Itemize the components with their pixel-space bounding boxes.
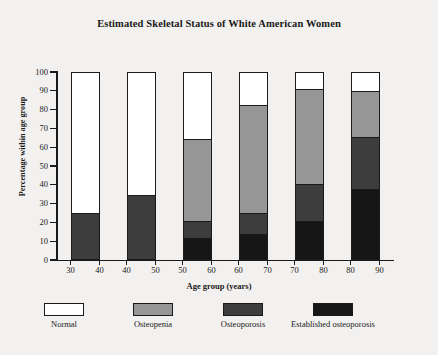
- bar-segment-normal: [352, 73, 379, 92]
- y-axis-title: Percentage within age group: [18, 82, 27, 212]
- bar-segment-established: [296, 222, 323, 259]
- legend-swatch: [133, 303, 173, 316]
- y-axis-tick-label: 0: [2, 256, 48, 265]
- bar-70-80[interactable]: [295, 72, 324, 260]
- bar-segment-normal: [128, 73, 155, 196]
- y-axis-tick: [50, 184, 56, 185]
- chart-title: Estimated Skeletal Status of White Ameri…: [0, 18, 438, 29]
- legend-item-osteopenia[interactable]: Osteopenia: [105, 303, 201, 330]
- y-axis-tick-label: 20: [2, 218, 48, 227]
- legend-swatch: [44, 303, 84, 316]
- y-axis-tick: [50, 259, 56, 260]
- legend-item-normal[interactable]: Normal: [16, 303, 112, 330]
- y-axis-tick: [50, 90, 56, 91]
- x-axis-tick-label: 80: [339, 266, 363, 275]
- y-axis-tick: [50, 128, 56, 129]
- x-axis-tick-label: 70: [283, 266, 307, 275]
- legend-label: Established osteoporosis: [285, 320, 381, 330]
- bar-segment-osteoporosis: [184, 222, 211, 239]
- y-axis-tick: [50, 109, 56, 110]
- legend-label: Osteoporosis: [195, 320, 291, 330]
- legend-item-osteoporosis[interactable]: Osteoporosis: [195, 303, 291, 330]
- bar-segment-established: [240, 235, 267, 259]
- bar-40-50[interactable]: [127, 72, 156, 260]
- x-axis-tick-label: 30: [59, 266, 83, 275]
- legend-label: Normal: [16, 320, 112, 330]
- legend-swatch: [313, 303, 353, 316]
- y-axis-tick: [50, 203, 56, 204]
- bar-segment-osteopenia: [184, 140, 211, 222]
- y-axis-tick-label: 10: [2, 237, 48, 246]
- legend-swatch: [223, 303, 263, 316]
- bar-segment-osteoporosis: [296, 185, 323, 222]
- x-axis-tick-label: 50: [144, 266, 168, 275]
- x-axis-tick-label: 60: [200, 266, 224, 275]
- y-axis-tick-label: 100: [2, 68, 48, 77]
- chart-legend: NormalOsteopeniaOsteoporosisEstablished …: [0, 303, 438, 349]
- bar-50-60[interactable]: [183, 72, 212, 260]
- legend-item-established-osteoporosis[interactable]: Established osteoporosis: [285, 303, 381, 330]
- bar-segment-normal: [296, 73, 323, 90]
- x-axis-tick-label: 70: [256, 266, 280, 275]
- y-axis-tick: [50, 71, 56, 72]
- y-axis-tick: [50, 241, 56, 242]
- y-axis-tick: [50, 147, 56, 148]
- bar-segment-osteopenia: [352, 92, 379, 139]
- bar-segment-established: [352, 190, 379, 259]
- bar-segment-established: [184, 239, 211, 259]
- chart-container: Estimated Skeletal Status of White Ameri…: [0, 0, 438, 355]
- x-axis-tick-label: 50: [171, 266, 195, 275]
- y-axis-tick: [50, 165, 56, 166]
- bar-segment-normal: [240, 73, 267, 106]
- bar-segment-osteopenia: [296, 90, 323, 185]
- x-axis-tick-label: 40: [88, 266, 112, 275]
- bar-segment-osteoporosis: [72, 214, 99, 259]
- bar-segment-osteopenia: [240, 106, 267, 214]
- x-axis-title: Age group (years): [0, 281, 438, 291]
- x-axis-tick-label: 40: [115, 266, 139, 275]
- bar-segment-normal: [72, 73, 99, 214]
- x-axis-tick-label: 80: [312, 266, 336, 275]
- bar-segment-osteoporosis: [352, 138, 379, 190]
- bar-segment-normal: [184, 73, 211, 140]
- plot-area: [57, 72, 393, 260]
- y-axis-tick: [50, 222, 56, 223]
- bar-60-70[interactable]: [239, 72, 268, 260]
- bar-segment-osteoporosis: [128, 196, 155, 259]
- bar-30-40[interactable]: [71, 72, 100, 260]
- x-axis-tick-label: 90: [368, 266, 392, 275]
- bar-segment-osteoporosis: [240, 214, 267, 234]
- bar-80-90[interactable]: [351, 72, 380, 260]
- legend-label: Osteopenia: [105, 320, 201, 330]
- x-axis-tick-label: 60: [227, 266, 251, 275]
